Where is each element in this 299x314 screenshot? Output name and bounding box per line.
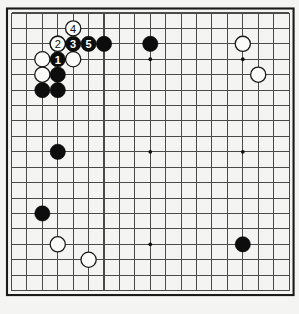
black-stone[interactable]	[235, 237, 250, 252]
go-board-diagram: 12345	[0, 0, 299, 314]
white-stone[interactable]	[35, 67, 50, 82]
move-number-label: 2	[55, 38, 61, 50]
black-stone[interactable]	[50, 144, 65, 159]
star-point	[241, 150, 245, 154]
black-stone[interactable]	[50, 83, 65, 98]
white-stone[interactable]	[81, 252, 96, 267]
move-number-label: 5	[86, 38, 92, 50]
move-number-label: 4	[70, 23, 76, 35]
black-stone[interactable]	[96, 36, 111, 51]
move-number-label: 1	[55, 54, 61, 66]
white-stone[interactable]	[35, 52, 50, 67]
black-stone[interactable]	[143, 36, 158, 51]
white-stone[interactable]	[50, 237, 65, 252]
black-stone[interactable]	[35, 206, 50, 221]
white-stone[interactable]	[235, 36, 250, 51]
go-board-svg: 12345	[0, 0, 299, 314]
star-point	[148, 150, 152, 154]
black-stone[interactable]	[50, 67, 65, 82]
move-number-label: 3	[70, 38, 76, 50]
star-point	[148, 242, 152, 246]
star-point	[148, 57, 152, 61]
star-point	[241, 57, 245, 61]
black-stone[interactable]	[35, 83, 50, 98]
white-stone[interactable]	[251, 67, 266, 82]
white-stone[interactable]	[66, 52, 81, 67]
